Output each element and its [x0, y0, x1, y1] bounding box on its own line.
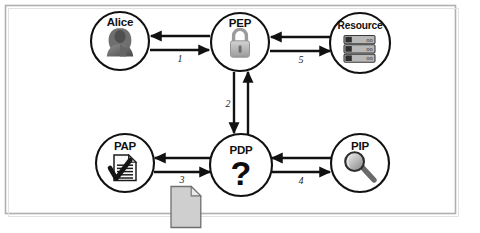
node-alice[interactable]: Alice — [91, 12, 149, 70]
node-pap[interactable]: PAP — [96, 134, 154, 192]
diagram-canvas: Alice PEP oo — [0, 0, 480, 233]
document-check-icon — [110, 155, 136, 181]
edge-4-label: 4 — [299, 175, 304, 186]
node-pip[interactable]: PIP — [331, 134, 389, 192]
svg-text:oo: oo — [366, 37, 373, 43]
server-stack-icon: oo oo oo — [344, 36, 375, 63]
edge-2-label: 2 — [226, 98, 231, 109]
node-alice-label: Alice — [107, 16, 134, 28]
edge-5-label: 5 — [299, 54, 304, 65]
node-pep-label: PEP — [229, 17, 252, 29]
node-pdp-label: PDP — [229, 144, 253, 156]
edge-1-label: 1 — [178, 53, 183, 64]
svg-text:oo: oo — [366, 55, 373, 61]
edge-3-label: 3 — [179, 174, 185, 185]
svg-text:oo: oo — [366, 46, 373, 52]
access-control-diagram: Alice PEP oo — [0, 0, 480, 233]
node-pep[interactable]: PEP — [211, 13, 269, 71]
node-pap-label: PAP — [114, 140, 137, 152]
node-resource[interactable]: oo oo oo Resource — [330, 13, 390, 73]
node-resource-label: Resource — [338, 20, 383, 31]
node-pip-label: PIP — [351, 140, 369, 152]
node-pdp[interactable]: ? PDP — [210, 134, 272, 196]
policy-document-icon — [171, 187, 201, 228]
question-mark-icon: ? — [231, 154, 252, 192]
